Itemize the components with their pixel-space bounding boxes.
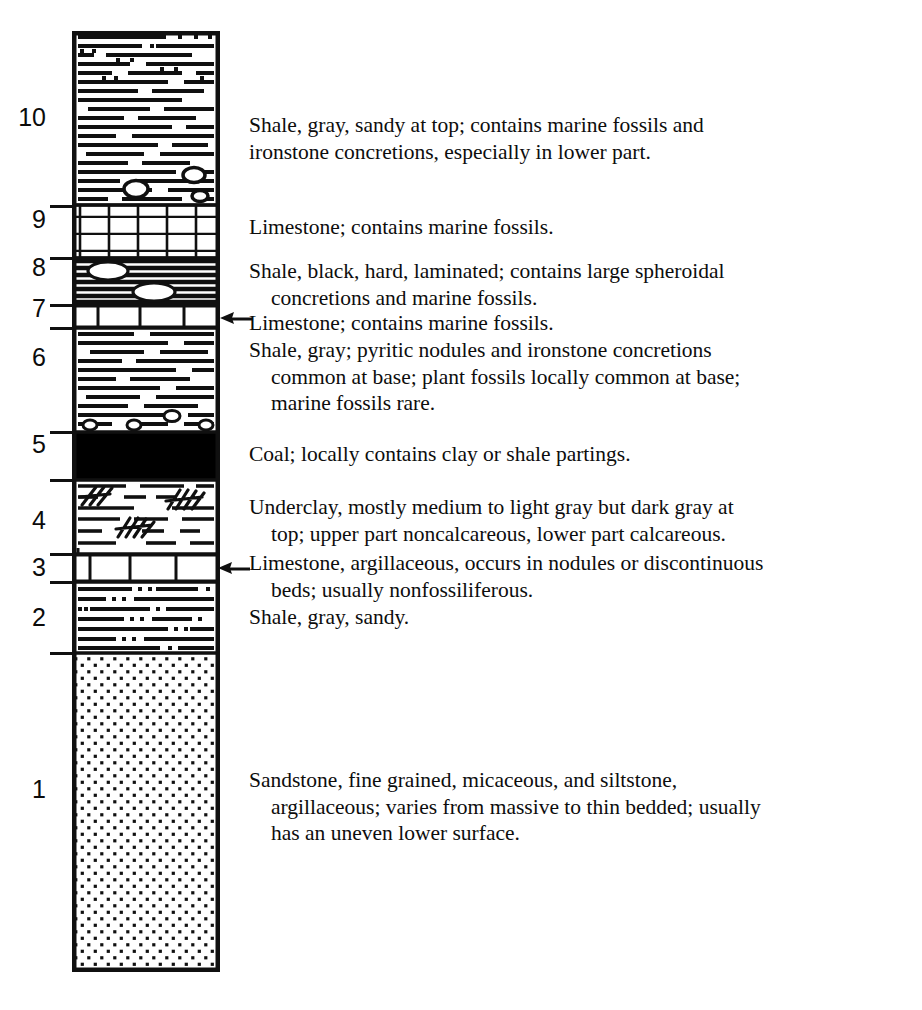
description-line: argillaceous; varies from massive to thi…: [249, 794, 899, 821]
description-line: Shale, gray; pyritic nodules and ironsto…: [249, 338, 712, 362]
description-line: Sandstone, fine grained, micaceous, and …: [249, 768, 677, 792]
unit-label-1: 1: [0, 777, 46, 802]
unit-label-8: 8: [0, 255, 46, 280]
unit-label-3: 3: [0, 555, 46, 580]
description-line: Coal; locally contains clay or shale par…: [249, 442, 631, 466]
description-line: Limestone; contains marine fossils.: [249, 311, 554, 335]
unit-label-7: 7: [0, 296, 46, 321]
unit-label-5: 5: [0, 432, 46, 457]
description-unit-7: Limestone; contains marine fossils.: [249, 310, 899, 337]
tick-unit-5: [50, 431, 74, 434]
unit-9-limestone: [72, 205, 220, 258]
description-unit-6: Shale, gray; pyritic nodules and ironsto…: [249, 337, 899, 417]
description-unit-9: Limestone; contains marine fossils.: [249, 214, 899, 241]
tick-unit-4: [50, 479, 74, 482]
description-unit-4: Underclay, mostly medium to light gray b…: [249, 494, 899, 547]
unit-8-black-shale: [72, 258, 220, 305]
tick-unit-6: [50, 327, 74, 330]
column-graphic: [72, 31, 220, 972]
description-unit-3: Limestone, argillaceous, occurs in nodul…: [249, 550, 899, 603]
tick-unit-8: [50, 257, 74, 260]
tick-unit-2: [50, 652, 74, 655]
description-unit-5: Coal; locally contains clay or shale par…: [249, 441, 899, 468]
description-line: Shale, gray, sandy.: [249, 605, 409, 629]
description-unit-10: Shale, gray, sandy at top; contains mari…: [249, 112, 899, 165]
tick-unit-9: [50, 205, 74, 208]
description-line: Shale, black, hard, laminated; contains …: [249, 259, 724, 283]
description-unit-1: Sandstone, fine grained, micaceous, and …: [249, 767, 899, 847]
description-line: Limestone, argillaceous, occurs in nodul…: [249, 551, 763, 575]
arrow-to-unit-3: [216, 558, 252, 578]
description-line: concretions and marine fossils.: [249, 285, 899, 312]
unit-label-10: 10: [0, 105, 46, 130]
description-line: common at base; plant fossils locally co…: [249, 364, 899, 391]
stratigraphic-column-figure: 10 9 8 7 6 5 4 3 2 1 Shale, gray, sandy …: [0, 0, 922, 1010]
unit-label-4: 4: [0, 508, 46, 533]
description-line: Underclay, mostly medium to light gray b…: [249, 495, 734, 519]
description-line: beds; usually nonfossiliferous.: [249, 577, 899, 604]
tick-unit-7: [50, 304, 74, 307]
description-line: Limestone; contains marine fossils.: [249, 215, 554, 239]
tick-unit-3a: [50, 553, 74, 556]
lithologic-column: [72, 31, 220, 972]
description-line: top; upper part noncalcareous, lower par…: [249, 521, 899, 548]
description-line: Shale, gray, sandy at top; contains mari…: [249, 113, 704, 137]
description-unit-2: Shale, gray, sandy.: [249, 604, 899, 631]
unit-label-9: 9: [0, 207, 46, 232]
description-line: has an uneven lower surface.: [249, 820, 899, 847]
description-unit-8: Shale, black, hard, laminated; contains …: [249, 258, 899, 311]
unit-7-limestone: [72, 305, 220, 328]
unit-4-underclay: [72, 480, 220, 554]
unit-1-sandstone: [72, 653, 220, 972]
unit-3-limestone: [72, 554, 220, 582]
description-line: marine fossils rare.: [249, 390, 899, 417]
unit-5-coal: [72, 432, 220, 480]
description-line: ironstone concretions, especially in low…: [249, 139, 899, 166]
tick-unit-3b: [50, 581, 74, 584]
unit-label-2: 2: [0, 605, 46, 630]
unit-label-6: 6: [0, 345, 46, 370]
